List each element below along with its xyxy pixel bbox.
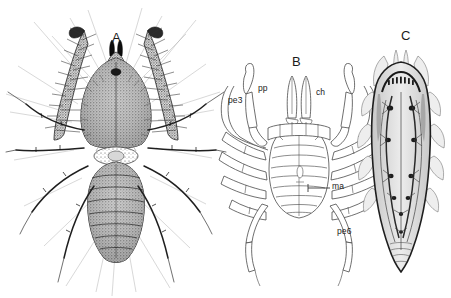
anatomical-label-ch: ch (316, 87, 325, 97)
anatomical-label-ma: ma (332, 181, 344, 191)
panel-c-body (357, 50, 444, 272)
panel-c-artwork (0, 0, 451, 298)
anatomical-label-pe3: pe3 (228, 95, 242, 105)
panel-label-c: C (401, 28, 411, 43)
figure-canvas: A B C pe3 pp ch ma pe6 (0, 0, 451, 298)
panel-label-b: B (292, 54, 301, 69)
panel-label-a: A (112, 30, 121, 45)
anatomical-label-pe6: pe6 (337, 226, 351, 236)
anatomical-label-pp: pp (258, 83, 268, 93)
